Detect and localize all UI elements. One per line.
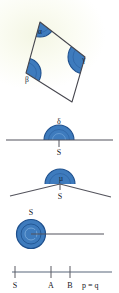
diagram-sheet: α β γ δ S µ [0,0,119,293]
tick-b-label: B [67,281,72,290]
figure-straight-angle: δ S [0,114,119,156]
angle-alpha-label: α [38,27,42,36]
bent-angle-vertex-label: S [58,192,62,201]
angle-gamma-label: γ [81,55,86,64]
figure-full-turn: S [0,202,119,252]
straight-angle-vertex-label: S [57,148,61,156]
angle-beta-label: β [25,75,29,84]
figure-bent-angle: µ S [0,156,119,201]
bent-angle-label: µ [59,174,64,183]
full-turn-vertex-label: S [29,208,33,217]
tick-a-label: A [48,281,54,290]
straight-angle-halfdisc [44,125,74,140]
figure-quadrilateral: α β γ [0,0,119,110]
number-line-equation: p = q [82,281,99,290]
tick-s-label: S [13,281,17,290]
figure-number-line: S A B p = q [0,258,119,293]
